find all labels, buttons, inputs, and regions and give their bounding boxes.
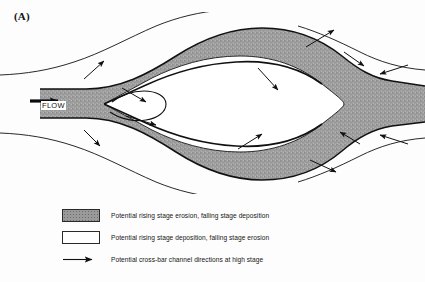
legend-row-arrow: Potential cross-bar channel directions a… [0, 248, 425, 270]
flow-label: FLOW [41, 101, 66, 110]
cross-bar-arrow-1 [84, 61, 104, 79]
legend-row-deposition: Potential rising stage deposition, falli… [0, 226, 425, 248]
legend-row-erosion: Potential rising stage erosion, falling … [0, 204, 425, 226]
legend-label-unshaded: Potential rising stage deposition, falli… [111, 234, 269, 241]
legend: Potential rising stage erosion, falling … [0, 204, 425, 270]
cross-bar-arrow-9 [380, 65, 408, 74]
cross-bar-arrow-2 [84, 130, 100, 146]
legend-arrow-icon [62, 253, 100, 266]
figure-root: (A) [0, 0, 425, 282]
legend-swatch-unshaded [62, 231, 100, 244]
legend-label-arrow: Potential cross-bar channel directions a… [111, 256, 263, 263]
legend-label-shaded: Potential rising stage erosion, falling … [111, 212, 269, 219]
cross-bar-arrow-10 [380, 135, 408, 144]
legend-swatch-shaded [62, 209, 100, 222]
